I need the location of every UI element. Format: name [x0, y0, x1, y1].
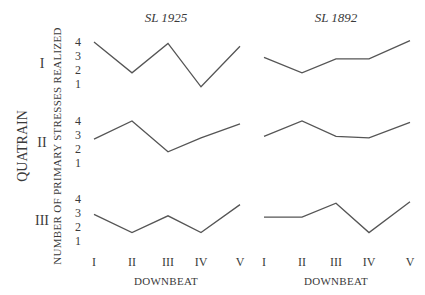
x-tick-label: III — [162, 255, 174, 269]
y-tick-label: 2 — [75, 63, 81, 77]
y-tick-label: 4 — [75, 192, 81, 206]
row-label-iii: III — [35, 213, 49, 228]
y-tick-label: 3 — [75, 49, 81, 63]
x-tick-label: I — [92, 255, 96, 269]
y-tick-label: 3 — [75, 128, 81, 142]
series-lines — [94, 41, 410, 233]
series-line-i-sl1892 — [264, 41, 410, 73]
y-axis-label: NUMBER OF PRIMARY STRESSES REALIZED — [51, 27, 63, 264]
series-line-ii-sl1892 — [264, 121, 410, 138]
x-axis-label-left: DOWNBEAT — [134, 275, 198, 287]
x-tick-label: V — [236, 255, 245, 269]
column-title-left: SL 1925 — [145, 10, 188, 25]
series-line-ii-sl1925 — [94, 121, 240, 152]
y-tick-label: 4 — [75, 114, 81, 128]
series-line-i-sl1925 — [94, 42, 240, 87]
quatrain-axis-label: QUATRAIN — [15, 110, 30, 182]
x-tick-label: IV — [363, 255, 376, 269]
x-ticks: IIIIIIIVVIIIIIIIVV — [92, 255, 415, 269]
column-title-right: SL 1892 — [315, 10, 358, 25]
line-chart: SL 1925 SL 1892 QUATRAIN NUMBER OF PRIMA… — [0, 0, 425, 295]
series-line-iii-sl1892 — [264, 202, 410, 233]
y-tick-label: 1 — [75, 77, 81, 91]
y-tick-label: 4 — [75, 35, 81, 49]
x-axis-label-right: DOWNBEAT — [304, 275, 368, 287]
x-tick-label: III — [330, 255, 342, 269]
row-label-i: I — [40, 56, 45, 71]
y-tick-label: 3 — [75, 206, 81, 220]
x-tick-label: II — [128, 255, 136, 269]
y-tick-label: 2 — [75, 220, 81, 234]
row-label-ii: II — [37, 135, 47, 150]
x-tick-label: V — [406, 255, 415, 269]
y-tick-label: 1 — [75, 156, 81, 170]
x-tick-label: IV — [195, 255, 208, 269]
x-tick-label: II — [298, 255, 306, 269]
y-tick-label: 2 — [75, 142, 81, 156]
series-line-iii-sl1925 — [94, 205, 240, 233]
y-tick-label: 1 — [75, 234, 81, 248]
y-ticks: 432143214321 — [75, 35, 81, 248]
x-tick-label: I — [262, 255, 266, 269]
